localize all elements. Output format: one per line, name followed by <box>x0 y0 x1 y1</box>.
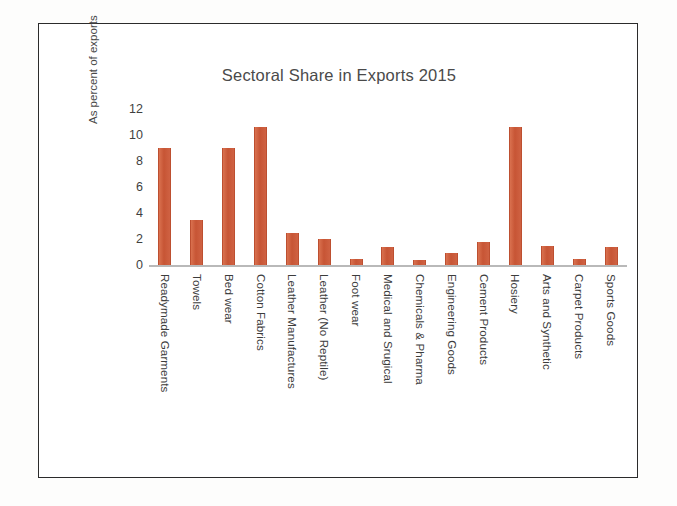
bar-slot[interactable] <box>276 109 308 265</box>
x-label-slot: Sports Goods <box>595 270 627 470</box>
bar-slot[interactable] <box>245 109 277 265</box>
bar-slot[interactable] <box>500 109 532 265</box>
bar-slot[interactable] <box>468 109 500 265</box>
x-label-slot: Arts and Synthetic <box>531 270 563 470</box>
x-label-slot: Cement Products <box>468 270 500 470</box>
x-tick-label: Towels <box>190 274 203 310</box>
chart-title: Sectoral Share in Exports 2015 <box>39 66 639 85</box>
x-tick-label: Foot wear <box>350 274 363 326</box>
bar[interactable] <box>605 247 618 265</box>
x-label-slot: Leather Manufactures <box>276 270 308 470</box>
bar-slot[interactable] <box>531 109 563 265</box>
bar[interactable] <box>158 148 171 265</box>
bar[interactable] <box>222 148 235 265</box>
x-label-slot: Foot wear <box>340 270 372 470</box>
bar[interactable] <box>573 259 586 265</box>
bar[interactable] <box>509 127 522 265</box>
y-tick-label: 6 <box>136 180 143 194</box>
bar[interactable] <box>254 127 267 265</box>
x-tick-label: Cotton Fabrics <box>254 274 267 351</box>
x-tick-label: Chemicals & Pharma <box>413 274 426 385</box>
x-label-slot: Cotton Fabrics <box>245 270 277 470</box>
x-label-slot: Carpet Products <box>563 270 595 470</box>
y-tick-label: 8 <box>136 154 143 168</box>
x-tick-label: Medical and Srugical <box>381 274 394 384</box>
bar-slot[interactable] <box>308 109 340 265</box>
x-tick-label: Sports Goods <box>605 274 618 346</box>
x-tick-label: Hosiery <box>509 274 522 314</box>
bar[interactable] <box>477 242 490 265</box>
bar[interactable] <box>413 260 426 265</box>
x-label-slot: Leather (No Reptile) <box>308 270 340 470</box>
x-tick-label: Readymade Garments <box>158 274 171 392</box>
x-tick-label: Bed wear <box>222 274 235 324</box>
bar-slot[interactable] <box>404 109 436 265</box>
x-tick-label: Cement Products <box>477 274 490 365</box>
x-label-slot: Readymade Garments <box>149 270 181 470</box>
bar[interactable] <box>286 233 299 266</box>
bar-slot[interactable] <box>563 109 595 265</box>
x-tick-label: Carpet Products <box>573 274 586 359</box>
bar-slot[interactable] <box>372 109 404 265</box>
bar[interactable] <box>190 220 203 266</box>
x-label-slot: Towels <box>181 270 213 470</box>
y-tick-label: 2 <box>136 232 143 246</box>
x-label-slot: Engineering Goods <box>436 270 468 470</box>
bar-series <box>149 109 627 265</box>
y-tick-label: 0 <box>136 258 143 272</box>
x-tick-label: Leather (No Reptile) <box>318 274 331 380</box>
bar-slot[interactable] <box>595 109 627 265</box>
x-label-slot: Bed wear <box>213 270 245 470</box>
y-tick-label: 4 <box>136 206 143 220</box>
bar-slot[interactable] <box>181 109 213 265</box>
bar[interactable] <box>445 253 458 265</box>
x-axis-line <box>149 265 627 267</box>
bar-slot[interactable] <box>149 109 181 265</box>
scanned-page: Sectoral Share in Exports 2015 As percen… <box>0 0 677 506</box>
x-tick-label: Leather Manufactures <box>286 274 299 389</box>
bar[interactable] <box>318 239 331 265</box>
bar-slot[interactable] <box>436 109 468 265</box>
x-tick-label: Arts and Synthetic <box>541 274 554 370</box>
x-label-slot: Hosiery <box>500 270 532 470</box>
y-tick-label: 12 <box>129 102 143 116</box>
bar-slot[interactable] <box>340 109 372 265</box>
chart-container: Sectoral Share in Exports 2015 As percen… <box>38 23 638 478</box>
x-label-slot: Medical and Srugical <box>372 270 404 470</box>
y-axis-title: As percent of exports <box>87 0 105 124</box>
y-tick-label: 10 <box>129 128 143 142</box>
x-label-slot: Chemicals & Pharma <box>404 270 436 470</box>
x-tick-label: Engineering Goods <box>445 274 458 375</box>
bar[interactable] <box>381 247 394 265</box>
bar-slot[interactable] <box>213 109 245 265</box>
bar[interactable] <box>350 259 363 265</box>
x-axis-category-labels: Readymade GarmentsTowelsBed wearCotton F… <box>149 270 627 470</box>
bar[interactable] <box>541 246 554 266</box>
